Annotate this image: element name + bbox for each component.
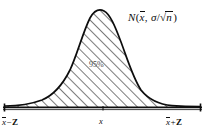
- axis-label-lower-limit: x−Z: [2, 117, 18, 127]
- upper-limit-margin-symbol: Z: [176, 117, 182, 127]
- formula-close-paren: ): [173, 11, 177, 23]
- distribution-formula-label: N(x, σ/√n): [128, 11, 177, 23]
- normal-distribution-figure: N(x, σ/√n) 95% x−Z x x+Z: [0, 0, 205, 131]
- formula-function-name: N: [128, 11, 136, 23]
- confidence-level-label: 95%: [89, 61, 104, 69]
- lower-limit-margin-symbol: Z: [12, 117, 18, 127]
- axis-label-upper-limit: x+Z: [166, 117, 182, 127]
- formula-n-symbol: n: [165, 11, 173, 23]
- axis-label-center-mean: x: [99, 117, 103, 126]
